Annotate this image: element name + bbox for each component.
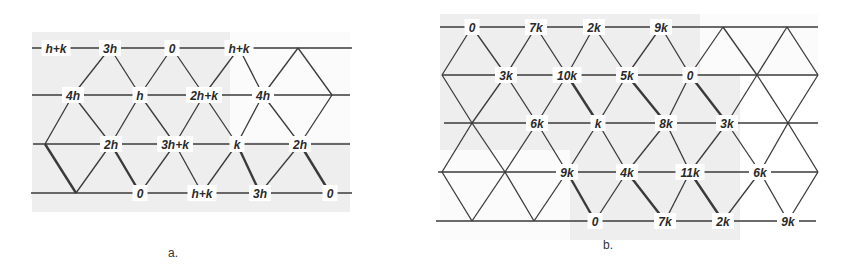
lattice-node-label: 11k	[680, 166, 700, 180]
lattice-node-label: 0	[687, 69, 694, 83]
figure-canvas: h+k3h0h+k4hh2h+k4h2h3h+kk2h0h+k3h0 a. 07…	[0, 0, 843, 267]
lattice-node-label: 2k	[715, 215, 731, 229]
lattice-node-label: 9k	[654, 21, 669, 35]
lattice-node-label: 6k	[753, 166, 768, 180]
lattice-node-label: 3k	[499, 69, 514, 83]
panel-a: h+k3h0h+k4hh2h+k4h2h3h+kk2h0h+k3h0 a.	[31, 32, 352, 260]
lattice-node-label: 7k	[658, 215, 673, 229]
lattice-node-label: 9k	[781, 215, 796, 229]
panel-b: 07k2k9k3k10k5k06kk8k3k9k4k11k6k07k2k9k b…	[436, 14, 818, 252]
lattice-node-label: h	[136, 89, 143, 103]
lattice-node-label: 3h+k	[161, 138, 190, 152]
lattice-node-label: 0	[592, 215, 599, 229]
lattice-node-label: 9k	[560, 166, 575, 180]
lattice-node-label: h+k	[45, 42, 67, 56]
lattice-node-label: 3h	[103, 42, 117, 56]
lattice-node-label: 0	[137, 187, 144, 201]
lattice-node-label: 0	[169, 42, 176, 56]
lattice-node-label: 5k	[620, 69, 635, 83]
lattice-diagonal	[788, 123, 818, 172]
lattice-node-label: 4k	[619, 166, 635, 180]
lattice-node-label: 4h	[255, 89, 270, 103]
lattice-diagonal	[788, 75, 818, 123]
lattice-node-label: 10k	[557, 69, 578, 83]
lattice-node-label: 0	[469, 21, 476, 35]
lattice-node-label: 0	[327, 187, 334, 201]
lattice-diagonal	[757, 75, 788, 123]
lattice-node-label: 6k	[530, 117, 545, 131]
panel-b-caption: b.	[603, 238, 613, 252]
lattice-node-label: 7k	[529, 21, 544, 35]
lattice-node-label: h+k	[191, 187, 213, 201]
lattice-node-label: 2h+k	[189, 89, 219, 103]
lattice-node-label: 3h	[253, 187, 267, 201]
panel-a-caption: a.	[168, 246, 178, 260]
lattice-node-label: 8k	[659, 117, 674, 131]
lattice-node-label: 2h	[292, 138, 307, 152]
lattice-node-label: 2h	[103, 138, 118, 152]
lattice-node-label: 4h	[65, 89, 80, 103]
lattice-node-label: h+k	[228, 42, 250, 56]
lattice-node-label: 3k	[720, 117, 735, 131]
lattice-node-label: 2k	[586, 21, 602, 35]
